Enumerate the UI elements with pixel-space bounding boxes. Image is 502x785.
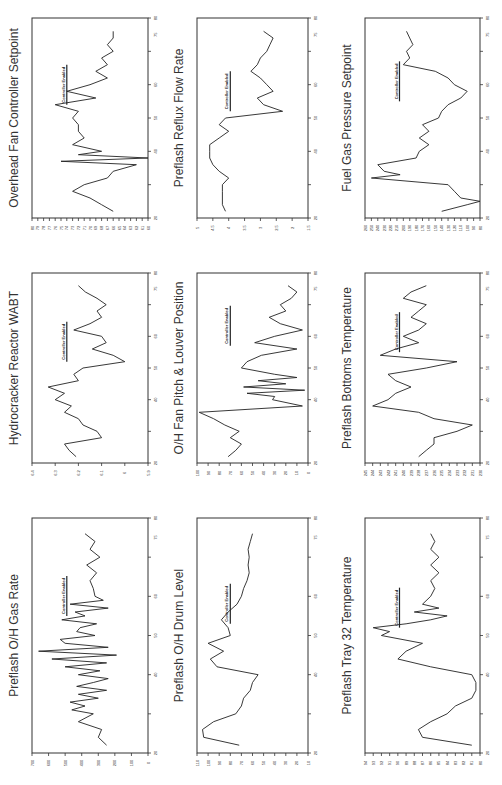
x-tick-label: 75 (153, 535, 158, 540)
chart-preflash-o-h-gas-rate: Preflash O/H Gas Rate0100200300400500600… (0, 500, 170, 785)
x-tick-label: 40 (313, 148, 318, 153)
value-tick-label: 235 (439, 469, 444, 476)
value-tick-label: 6.2 (76, 469, 81, 475)
value-tick-label: 82 (461, 760, 466, 765)
x-tick-label: 80 (485, 15, 490, 20)
value-tick-label: 40 (272, 760, 277, 765)
x-tick-label: 40 (485, 672, 490, 677)
value-tick-label: 100 (195, 469, 200, 476)
value-tick-label: 300 (96, 759, 101, 766)
x-tick-label: 60 (485, 82, 490, 87)
value-tick-label: 190 (407, 224, 412, 231)
value-tick-label: 230 (382, 224, 387, 231)
x-tick-label: 50 (485, 365, 490, 370)
value-tick-label: 61 (140, 225, 145, 230)
value-tick-label: 79 (35, 225, 40, 230)
x-tick-label: 75 (313, 535, 318, 540)
x-tick-label: 80 (153, 15, 158, 20)
x-tick-label: 50 (485, 633, 490, 638)
value-tick-label: 68 (99, 225, 104, 230)
value-tick-label: 71 (82, 225, 87, 230)
controller-enabled-annotation: Controller Enabled (394, 314, 399, 350)
value-tick-label: 1.5 (306, 224, 311, 230)
value-tick-label: 100 (465, 224, 470, 231)
x-tick-label: 40 (153, 148, 158, 153)
x-tick-label: 20 (485, 215, 490, 220)
controller-enabled-annotation: Controller Enabled (224, 585, 229, 621)
x-tick-label: 50 (153, 633, 158, 638)
value-tick-label: 130 (446, 224, 451, 231)
chart-title: Preflash O/H Drum Level (172, 569, 186, 702)
value-tick-label: 200 (112, 759, 117, 766)
value-tick-label: 220 (388, 224, 393, 231)
plot-frame (32, 18, 148, 218)
x-tick-label: 20 (153, 750, 158, 755)
controller-enabled-annotation: Controller Enabled (61, 578, 66, 614)
value-tick-label: 66 (111, 225, 116, 230)
value-tick-label: 400 (79, 759, 84, 766)
chart-preflash-bottoms-temperature: Preflash Bottoms Temperature230231232233… (333, 255, 502, 495)
chart-title: Overhead Fan Controller Setpoint (7, 28, 21, 208)
data-line (203, 534, 259, 746)
value-tick-label: 243 (378, 469, 383, 476)
value-tick-label: 70 (88, 225, 93, 230)
chart-title: Preflash Tray 32 Temperature (340, 556, 354, 714)
value-tick-label: 60 (250, 760, 255, 765)
value-tick-label: 80 (478, 225, 483, 230)
value-tick-label: 237 (424, 469, 429, 476)
data-line (48, 286, 125, 457)
x-tick-label: 80 (153, 270, 158, 275)
value-tick-label: 170 (420, 224, 425, 231)
x-tick-label: 60 (313, 82, 318, 87)
x-tick-label: 80 (313, 515, 318, 520)
value-tick-label: 231 (470, 469, 475, 476)
x-tick-label: 40 (485, 397, 490, 402)
plot-frame (365, 273, 480, 463)
value-tick-label: 90 (217, 760, 222, 765)
value-tick-label: 200 (401, 224, 406, 231)
plot-frame (32, 518, 148, 753)
value-tick-label: 0 (306, 471, 311, 474)
value-tick-label: 64 (122, 225, 127, 230)
data-line (373, 534, 476, 746)
x-tick-label: 75 (153, 32, 158, 37)
chart-preflash-reflux-flow-rate: Preflash Reflux Flow Rate1.522.533.544.5… (165, 0, 330, 250)
value-tick-label: 110 (195, 759, 200, 766)
value-tick-label: 110 (458, 224, 463, 231)
value-tick-label: 10 (294, 470, 299, 475)
value-tick-label: 260 (363, 224, 368, 231)
value-tick-label: 93 (371, 760, 376, 765)
value-tick-label: 87 (420, 760, 425, 765)
value-tick-label: 180 (414, 224, 419, 231)
value-tick-label: 6.4 (30, 469, 35, 475)
x-tick-label: 40 (313, 672, 318, 677)
value-tick-label: 60 (239, 470, 244, 475)
value-tick-label: 62 (134, 225, 139, 230)
value-tick-label: 90 (395, 760, 400, 765)
x-tick-label: 50 (153, 115, 158, 120)
value-tick-label: 77 (47, 225, 52, 230)
chart-hydrocracker-reactor-wabt: Hydrocracker Reactor WABT5.966.16.26.36.… (0, 255, 170, 495)
value-tick-label: 86 (428, 760, 433, 765)
x-tick-label: 50 (313, 365, 318, 370)
x-tick-label: 75 (313, 32, 318, 37)
value-tick-label: 240 (401, 469, 406, 476)
value-tick-label: 241 (393, 469, 398, 476)
value-tick-label: 234 (447, 469, 452, 476)
x-tick-label: 20 (313, 750, 318, 755)
value-tick-label: 100 (206, 759, 211, 766)
plot-frame (32, 273, 148, 463)
value-tick-label: 90 (206, 470, 211, 475)
data-line (210, 31, 283, 211)
value-tick-label: 80 (228, 760, 233, 765)
x-tick-label: 80 (313, 270, 318, 275)
value-tick-label: 50 (261, 760, 266, 765)
value-tick-label: 20 (294, 760, 299, 765)
x-tick-label: 20 (313, 215, 318, 220)
x-tick-label: 75 (485, 286, 490, 291)
x-tick-label: 50 (485, 115, 490, 120)
x-tick-label: 40 (485, 148, 490, 153)
value-tick-label: 4 (226, 226, 231, 229)
data-line (371, 31, 480, 211)
value-tick-label: 233 (455, 469, 460, 476)
